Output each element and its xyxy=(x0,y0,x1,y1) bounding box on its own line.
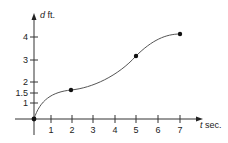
y-tick-label: 1 xyxy=(23,98,28,108)
y-axis-label: d ft. xyxy=(40,10,55,20)
data-point xyxy=(69,88,73,92)
x-tick-labels: 1 2 3 4 5 6 7 xyxy=(48,125,182,135)
y-tick-label: 4 xyxy=(23,32,28,42)
chart: 1 1.5 2 3 4 1 2 3 4 5 6 7 d ft. t sec. xyxy=(0,0,228,143)
y-tick-label: 1.5 xyxy=(15,88,28,98)
x-tick-label: 1 xyxy=(48,125,53,135)
y-tick-label: 2 xyxy=(23,77,28,87)
x-axis-label: t sec. xyxy=(200,120,222,130)
x-tick-label: 6 xyxy=(155,125,160,135)
x-tick-label: 2 xyxy=(69,125,74,135)
data-point xyxy=(32,117,37,122)
x-tick-label: 7 xyxy=(177,125,182,135)
axes xyxy=(15,18,198,135)
data-points xyxy=(32,32,183,122)
data-point xyxy=(134,54,138,58)
distance-curve xyxy=(34,34,180,119)
y-tick-labels: 1 1.5 2 3 4 xyxy=(15,32,28,108)
data-point xyxy=(178,32,182,36)
x-tick-label: 4 xyxy=(112,125,117,135)
y-axis-arrow-icon xyxy=(32,13,37,20)
x-tick-label: 3 xyxy=(90,125,95,135)
x-tick-label: 5 xyxy=(133,125,138,135)
y-tick-label: 3 xyxy=(23,55,28,65)
